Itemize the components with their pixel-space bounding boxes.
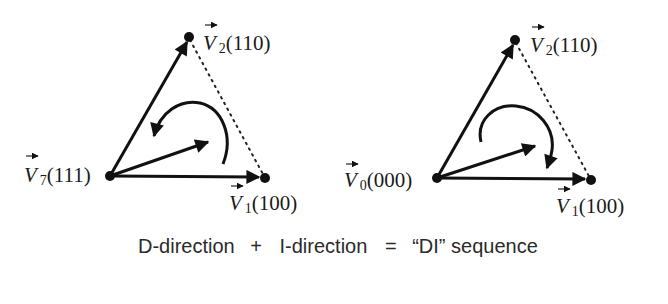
svg-text:V1(100): V1(100) <box>229 191 297 216</box>
label-v0: V0(000) <box>344 164 412 193</box>
vertex-dot-origin <box>432 173 442 183</box>
label-v2: V2(110) <box>203 25 271 56</box>
right-vector-diagram: V0(000) V2(110) V1(100) <box>344 27 624 219</box>
label-v7: V7(111) <box>24 156 91 188</box>
label-v1: V1(100) <box>229 186 297 216</box>
caption-result: “DI” sequence <box>412 235 538 257</box>
caption-plus: + <box>250 235 262 257</box>
vertex-dot-origin <box>105 171 115 181</box>
caption-i-direction: I-direction <box>280 235 368 257</box>
label-v1: V1(100) <box>556 189 624 219</box>
vector-arrow-v1 <box>437 178 585 179</box>
svg-text:V2(110): V2(110) <box>530 33 598 58</box>
rotation-arc-ccw-icon <box>154 102 227 164</box>
vertex-dot-v1 <box>586 175 596 185</box>
vertex-dot-v1 <box>260 173 270 183</box>
caption-d-direction: D-direction <box>138 235 235 257</box>
rotation-arc-cw-icon <box>480 106 552 168</box>
svg-text:V2(110): V2(110) <box>203 31 271 56</box>
vertex-dot-v2 <box>510 35 520 45</box>
vertex-dot-v2 <box>184 32 194 42</box>
caption-equals: = <box>385 235 397 257</box>
reference-vector-arrow <box>110 142 208 176</box>
label-v2: V2(110) <box>530 27 598 58</box>
svg-text:V0(000): V0(000) <box>344 168 412 193</box>
svg-text:V7(111): V7(111) <box>24 163 91 188</box>
vector-arrow-v2 <box>110 42 187 176</box>
dotted-boundary-line <box>516 43 590 178</box>
caption: D-direction + I-direction = “DI” sequenc… <box>138 235 538 257</box>
space-vector-diagram: V7(111) V2(110) V1(100) V0(000) <box>0 0 668 304</box>
left-vector-diagram: V7(111) V2(110) V1(100) <box>24 25 297 216</box>
vector-arrow-v1 <box>110 176 259 177</box>
svg-text:V1(100): V1(100) <box>556 194 624 219</box>
